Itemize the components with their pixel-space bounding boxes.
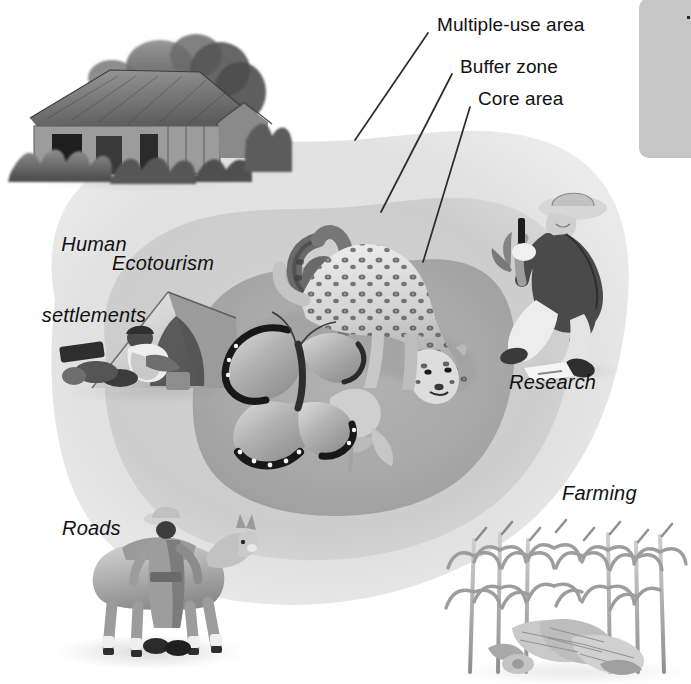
label-roads: Roads xyxy=(62,517,121,539)
label-research: Research xyxy=(509,371,596,393)
label-human-settlements: Human settlements xyxy=(18,186,170,375)
corner-panel xyxy=(639,0,691,158)
label-human-settlements-line2: settlements xyxy=(18,304,170,328)
label-farming: Farming xyxy=(562,482,637,504)
callout-label-buffer-zone: Buffer zone xyxy=(460,56,558,77)
corner-panel-mark xyxy=(687,16,690,19)
callout-label-core-area: Core area xyxy=(478,88,563,109)
leader-line-multiple-use-area xyxy=(355,33,428,140)
figure-canvas: Multiple-use area Buffer zone Core area … xyxy=(0,0,691,684)
house-illustration xyxy=(8,34,292,192)
label-ecotourism: Ecotourism xyxy=(112,252,214,274)
callout-label-multiple-use-area: Multiple-use area xyxy=(437,14,584,35)
